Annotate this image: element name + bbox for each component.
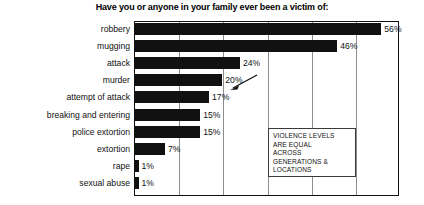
bar-value-label: 56% xyxy=(384,24,401,33)
bar-value-label: 7% xyxy=(168,144,180,153)
category-label: police extortion xyxy=(0,127,130,136)
category-label: extortion xyxy=(0,144,130,153)
bar-rows-container: robbery56%mugging46%attack24%murder20%at… xyxy=(0,21,424,196)
bar xyxy=(134,126,200,138)
category-label: murder xyxy=(0,76,130,85)
bar-value-label: 15% xyxy=(203,110,220,119)
category-label: sexual abuse xyxy=(0,179,130,188)
bar xyxy=(134,143,165,155)
violence-levels-callout: VIOLENCE LEVELS ARE EQUAL ACROSS GENERAT… xyxy=(268,128,356,177)
bar-value-label: 17% xyxy=(212,93,229,102)
bar xyxy=(134,177,139,189)
bar xyxy=(134,40,337,52)
bar xyxy=(134,109,200,121)
category-label: robbery xyxy=(0,24,130,33)
category-label: mugging xyxy=(0,41,130,50)
bar xyxy=(134,57,240,69)
bar-row: rape1% xyxy=(0,160,424,172)
callout-text: VIOLENCE LEVELS ARE EQUAL ACROSS GENERAT… xyxy=(273,132,355,175)
bar-row: police extortion15% xyxy=(0,126,424,138)
bar-value-label: 15% xyxy=(203,127,220,136)
bar xyxy=(134,160,139,172)
category-label: rape xyxy=(0,162,130,171)
category-label: attempt of attack xyxy=(0,93,130,102)
category-label: attack xyxy=(0,58,130,67)
bar-value-label: 24% xyxy=(243,58,260,67)
bar xyxy=(134,91,209,103)
bar-value-label: 1% xyxy=(142,162,154,171)
bar-value-label: 1% xyxy=(142,179,154,188)
bar-chart-figure: Have you or anyone in your family ever b… xyxy=(0,0,424,205)
bar-value-label: 46% xyxy=(340,41,357,50)
bar-row: attempt of attack17% xyxy=(0,91,424,103)
bar-row: sexual abuse1% xyxy=(0,177,424,189)
bar xyxy=(134,23,381,35)
bar-row: breaking and entering15% xyxy=(0,109,424,121)
chart-title: Have you or anyone in your family ever b… xyxy=(0,2,424,12)
bar xyxy=(134,74,222,86)
bar-row: mugging46% xyxy=(0,40,424,52)
bar-value-label: 20% xyxy=(225,76,242,85)
category-label: breaking and entering xyxy=(0,110,130,119)
bar-row: murder20% xyxy=(0,74,424,86)
bar-row: attack24% xyxy=(0,57,424,69)
bar-row: extortion7% xyxy=(0,143,424,155)
bar-row: robbery56% xyxy=(0,23,424,35)
